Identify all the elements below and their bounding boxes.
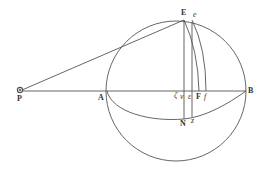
label-f: f bbox=[204, 93, 206, 101]
label-E: E bbox=[181, 9, 186, 17]
label-zeta: ζ bbox=[174, 92, 177, 100]
label-e: e bbox=[193, 11, 197, 19]
line-PE bbox=[22, 20, 184, 90]
label-P: P bbox=[17, 95, 22, 103]
label-B: B bbox=[248, 87, 253, 95]
label-z: z bbox=[191, 117, 194, 125]
label-v: v bbox=[180, 93, 184, 101]
label-N: N bbox=[180, 120, 186, 128]
arc-ef bbox=[192, 20, 206, 91]
label-F: F bbox=[196, 93, 201, 101]
diagram-canvas bbox=[0, 0, 263, 170]
label-A: A bbox=[98, 94, 104, 102]
label-epsilon: ε bbox=[188, 93, 191, 101]
